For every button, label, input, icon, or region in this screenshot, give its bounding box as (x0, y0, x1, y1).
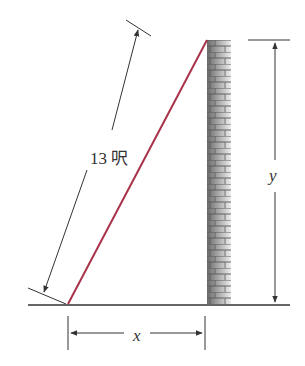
y-label: y (269, 164, 277, 187)
ladder-line (68, 40, 207, 304)
brick-wall (207, 40, 231, 304)
x-label: x (129, 327, 145, 344)
diagram-graphics (0, 0, 305, 366)
ladder-length-label: 13 呎 (88, 150, 130, 167)
ladder-wall-diagram: 13 呎 x y (0, 0, 305, 366)
